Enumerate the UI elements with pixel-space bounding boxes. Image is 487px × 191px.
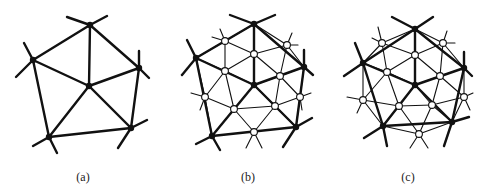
white-vertex bbox=[202, 94, 209, 101]
black-vertex bbox=[360, 60, 366, 66]
thick-stub bbox=[254, 15, 275, 24]
black-vertex bbox=[209, 133, 215, 139]
white-vertex bbox=[277, 73, 284, 80]
thin-edge bbox=[254, 54, 280, 76]
thick-edge bbox=[363, 29, 415, 63]
thick-edge bbox=[33, 25, 90, 60]
panel-b bbox=[182, 15, 313, 150]
thin-edge bbox=[432, 97, 464, 105]
black-vertex bbox=[293, 124, 299, 130]
thin-edge bbox=[382, 43, 415, 55]
white-vertex bbox=[272, 103, 279, 110]
panel-c bbox=[344, 17, 473, 148]
thin-edge bbox=[234, 106, 275, 109]
thick-stub bbox=[182, 58, 196, 75]
panel-label-b: (b) bbox=[241, 170, 255, 185]
white-vertex bbox=[440, 40, 447, 47]
thick-stub bbox=[16, 60, 33, 77]
thick-stub bbox=[344, 63, 363, 76]
panel-a bbox=[16, 16, 149, 153]
thick-stub bbox=[444, 122, 452, 146]
thin-edge bbox=[225, 71, 234, 109]
white-vertex bbox=[297, 94, 304, 101]
white-vertex bbox=[429, 102, 436, 109]
white-vertex bbox=[222, 38, 229, 45]
thick-edge bbox=[131, 68, 139, 128]
white-vertex bbox=[412, 52, 419, 59]
white-vertex bbox=[461, 94, 468, 101]
thin-edge bbox=[225, 54, 254, 71]
black-vertex bbox=[449, 119, 455, 125]
thin-edge bbox=[415, 55, 440, 76]
white-vertex bbox=[384, 69, 391, 76]
black-vertex bbox=[412, 82, 418, 88]
thick-stub bbox=[283, 127, 296, 147]
thick-stub bbox=[118, 128, 131, 148]
black-vertex bbox=[86, 83, 92, 89]
thick-stub bbox=[230, 15, 254, 24]
thin-edge bbox=[399, 105, 432, 106]
thin-edge bbox=[205, 71, 225, 97]
thick-edge bbox=[89, 25, 90, 86]
black-vertex bbox=[128, 125, 134, 131]
thick-edge bbox=[33, 60, 49, 137]
thin-edge bbox=[205, 97, 234, 109]
black-vertex bbox=[46, 134, 52, 140]
thin-edge bbox=[363, 100, 399, 106]
white-vertex bbox=[251, 51, 258, 58]
black-vertex bbox=[251, 82, 257, 88]
thick-edge bbox=[90, 25, 139, 68]
black-vertex bbox=[412, 26, 418, 32]
thin-edge bbox=[280, 76, 300, 97]
thick-stub bbox=[67, 17, 90, 25]
panel-label-c: (c) bbox=[401, 170, 414, 185]
thick-edge bbox=[33, 60, 89, 86]
thin-edge bbox=[234, 109, 254, 132]
black-vertex bbox=[136, 65, 142, 71]
thick-stub bbox=[415, 17, 433, 29]
black-vertex bbox=[87, 22, 93, 28]
white-vertex bbox=[416, 131, 423, 138]
thin-edge bbox=[275, 76, 280, 106]
white-vertex bbox=[379, 40, 386, 47]
triangulation-figure bbox=[0, 0, 487, 191]
thick-stub bbox=[392, 17, 415, 29]
white-vertex bbox=[360, 97, 367, 104]
thick-stub bbox=[355, 43, 363, 63]
black-vertex bbox=[251, 21, 257, 27]
thick-stub bbox=[364, 126, 383, 138]
panel-label-a: (a) bbox=[76, 170, 89, 185]
thin-edge bbox=[275, 97, 300, 106]
white-vertex bbox=[251, 129, 258, 136]
white-vertex bbox=[396, 103, 403, 110]
thick-edge bbox=[49, 86, 89, 137]
white-vertex bbox=[222, 68, 229, 75]
thin-edge bbox=[387, 55, 415, 72]
thick-edge bbox=[415, 29, 464, 68]
black-vertex bbox=[380, 123, 386, 129]
thick-edge bbox=[89, 68, 139, 86]
black-vertex bbox=[30, 57, 36, 63]
thick-edge bbox=[89, 86, 131, 128]
white-vertex bbox=[284, 42, 291, 49]
thin-edge bbox=[254, 106, 275, 132]
black-vertex bbox=[193, 55, 199, 61]
black-vertex bbox=[301, 64, 307, 70]
white-vertex bbox=[231, 106, 238, 113]
thick-edge bbox=[363, 63, 383, 126]
thin-edge bbox=[432, 76, 440, 105]
thick-edge bbox=[49, 128, 131, 137]
thin-edge bbox=[225, 41, 254, 54]
black-vertex bbox=[461, 65, 467, 71]
white-vertex bbox=[437, 73, 444, 80]
